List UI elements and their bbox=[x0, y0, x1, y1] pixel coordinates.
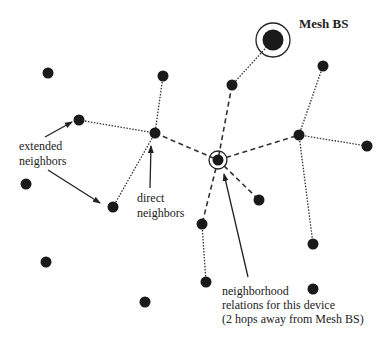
node bbox=[197, 219, 208, 230]
this-device-node bbox=[213, 155, 224, 166]
arrow-extended-2 bbox=[48, 170, 100, 203]
mesh-bs-node bbox=[263, 30, 284, 51]
relations-label-2: relations for this device bbox=[222, 298, 335, 312]
node bbox=[74, 115, 85, 126]
node bbox=[158, 71, 169, 82]
mesh-bs-label: Mesh BS bbox=[299, 16, 348, 31]
node bbox=[140, 297, 151, 308]
node bbox=[254, 195, 265, 206]
node bbox=[362, 141, 373, 152]
direct-neighbors-label-1: direct bbox=[137, 191, 165, 205]
direct-neighbors-label-2: neighbors bbox=[137, 206, 185, 220]
extended-neighbors-label-2: neighbors bbox=[19, 154, 67, 168]
arrow-direct bbox=[150, 146, 151, 188]
node bbox=[318, 61, 329, 72]
arrow-extended-1 bbox=[45, 122, 72, 137]
node bbox=[150, 128, 161, 139]
arrow-relations bbox=[224, 174, 248, 277]
relations-label-1: neighborhood bbox=[222, 284, 289, 298]
node bbox=[201, 277, 212, 288]
relations-label-3: (2 hops away from Mesh BS) bbox=[222, 312, 364, 326]
node bbox=[227, 80, 238, 91]
dashed-links bbox=[155, 85, 299, 224]
node bbox=[108, 202, 119, 213]
mesh-network-diagram: Mesh BS extended neighbors direct neighb… bbox=[0, 0, 389, 337]
node bbox=[308, 284, 319, 295]
node bbox=[294, 130, 305, 141]
extended-neighbors-label-1: extended bbox=[19, 139, 62, 153]
node bbox=[43, 68, 54, 79]
node bbox=[21, 179, 32, 190]
nodes bbox=[21, 23, 373, 308]
node bbox=[308, 239, 319, 250]
node bbox=[41, 257, 52, 268]
